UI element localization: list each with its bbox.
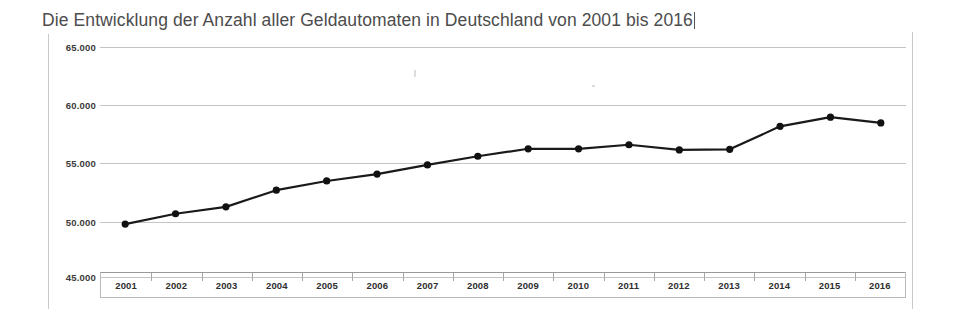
chart-page: Die Entwicklung der Anzahl aller Geldaut…	[0, 0, 956, 309]
y-axis-labels: 65.000 60.000 55.000 50.000 45.000	[40, 40, 96, 285]
x-tick-label: 2016	[855, 273, 905, 297]
data-point	[676, 146, 683, 153]
x-axis-labels: 2001 2002 2003 2004 2005 2006 2007 2008 …	[100, 272, 906, 298]
y-tick-label: 65.000	[44, 42, 96, 53]
data-point	[575, 145, 582, 152]
x-tick-label: 2006	[352, 273, 402, 297]
data-point	[877, 119, 884, 126]
x-tick-label: 2004	[252, 273, 302, 297]
x-tick-label: 2012	[654, 273, 704, 297]
x-tick-label: 2007	[403, 273, 453, 297]
y-tick-label: 55.000	[44, 158, 96, 169]
x-tick-label: 2002	[151, 273, 201, 297]
data-point	[172, 210, 179, 217]
y-tick-label: 45.000	[44, 272, 96, 283]
x-tick-label: 2014	[754, 273, 804, 297]
data-point	[827, 114, 834, 121]
data-point	[726, 146, 733, 153]
x-tick-label: 2011	[604, 273, 654, 297]
data-point	[776, 123, 783, 130]
x-tick-label: 2008	[453, 273, 503, 297]
x-tick-label: 2001	[101, 273, 151, 297]
data-point	[222, 203, 229, 210]
y-tick-label: 50.000	[44, 217, 96, 228]
series-line	[125, 117, 881, 224]
y-tick-label: 60.000	[44, 100, 96, 111]
chart-title-text: Die Entwicklung der Anzahl aller Geldaut…	[42, 10, 693, 30]
plot-area	[100, 40, 906, 285]
x-tick-label: 2005	[302, 273, 352, 297]
page-title: Die Entwicklung der Anzahl aller Geldaut…	[42, 9, 695, 31]
data-series	[100, 40, 906, 285]
x-tick-label: 2003	[202, 273, 252, 297]
data-point	[122, 221, 129, 228]
data-point	[525, 145, 532, 152]
x-tick-label: 2009	[503, 273, 553, 297]
x-tick-label: 2013	[704, 273, 754, 297]
text-cursor	[694, 12, 695, 29]
data-point	[625, 141, 632, 148]
x-tick-label: 2010	[553, 273, 603, 297]
data-point	[323, 177, 330, 184]
data-point	[273, 187, 280, 194]
data-point	[424, 161, 431, 168]
x-tick-label: 2015	[805, 273, 855, 297]
data-point	[373, 170, 380, 177]
data-point	[474, 153, 481, 160]
frame-border-right	[912, 32, 913, 309]
